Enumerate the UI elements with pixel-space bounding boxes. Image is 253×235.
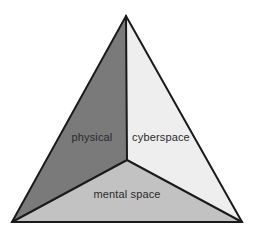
label-physical: physical: [72, 131, 113, 143]
diagram-canvas: physical cyberspace mental space: [0, 0, 253, 235]
label-cyberspace: cyberspace: [132, 131, 190, 143]
divider-center-to-apex: [126, 16, 127, 160]
label-mental-space: mental space: [93, 188, 160, 200]
triangle-diagram: physical cyberspace mental space: [0, 0, 253, 235]
